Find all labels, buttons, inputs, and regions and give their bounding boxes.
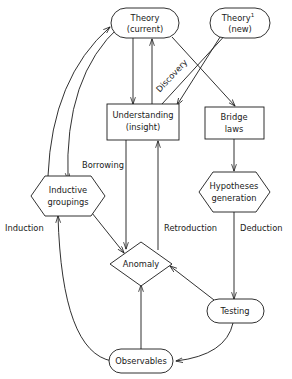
node-hypotheses-generation[interactable]: Hypotheses generation bbox=[199, 172, 270, 212]
node-anomaly-label: Anomaly bbox=[123, 259, 159, 269]
node-testing-label: Testing bbox=[219, 306, 249, 316]
node-testing[interactable]: Testing bbox=[207, 299, 264, 323]
node-observables-label: Observables bbox=[115, 356, 167, 366]
edge-inductive-groupings-to-anomaly bbox=[88, 208, 124, 253]
node-inductive-groupings[interactable]: Inductive groupings bbox=[31, 176, 105, 216]
edge-understanding-to-inductive-groupings bbox=[68, 26, 120, 180]
edge-testing-to-observables bbox=[176, 323, 233, 361]
node-bridge-laws-label-line1: Bridge bbox=[220, 112, 247, 122]
node-inductive-groupings-label-line1: Inductive bbox=[49, 185, 87, 195]
node-theory-new-superscript: 1 bbox=[251, 12, 255, 18]
edge-label-induction: Induction bbox=[5, 223, 44, 233]
edge-observables-to-inductive-groupings bbox=[58, 216, 112, 361]
node-theory-current[interactable]: Theory (current) bbox=[111, 8, 179, 38]
edge-label-discovery: Discovery bbox=[154, 57, 189, 94]
diagram-canvas: Theory (current) Theory1 (new) Understan… bbox=[0, 0, 292, 379]
node-theory-new-label-line1: Theory1 bbox=[221, 12, 255, 23]
node-anomaly[interactable]: Anomaly bbox=[110, 242, 172, 286]
node-observables[interactable]: Observables bbox=[109, 349, 173, 373]
node-hypotheses-generation-label-line2: generation bbox=[211, 193, 256, 203]
node-bridge-laws[interactable]: Bridge laws bbox=[205, 107, 264, 139]
edge-label-retroduction: Retroduction bbox=[164, 223, 217, 233]
node-inductive-groupings-label-line2: groupings bbox=[47, 197, 88, 207]
flow-diagram: Theory (current) Theory1 (new) Understan… bbox=[0, 0, 292, 379]
edge-label-borrowing: Borrowing bbox=[82, 160, 124, 170]
node-theory-new-label-line2: (new) bbox=[228, 24, 252, 34]
node-hypotheses-generation-label-line1: Hypotheses bbox=[210, 181, 259, 191]
node-understanding-label-line2: (insight) bbox=[126, 122, 160, 132]
edge-testing-to-anomaly bbox=[170, 266, 214, 300]
nodes-layer: Theory (current) Theory1 (new) Understan… bbox=[31, 8, 270, 373]
node-understanding-label-line1: Understanding bbox=[112, 110, 173, 120]
node-bridge-laws-label-line2: laws bbox=[225, 124, 244, 134]
node-theory-current-label-line2: (current) bbox=[127, 24, 163, 34]
node-theory-current-label-line1: Theory bbox=[130, 13, 160, 23]
edge-inductive-groupings-to-theory-current bbox=[48, 27, 110, 176]
node-theory-new[interactable]: Theory1 (new) bbox=[210, 8, 270, 38]
node-understanding[interactable]: Understanding (insight) bbox=[107, 104, 179, 140]
edge-label-deduction: Deduction bbox=[240, 223, 282, 233]
